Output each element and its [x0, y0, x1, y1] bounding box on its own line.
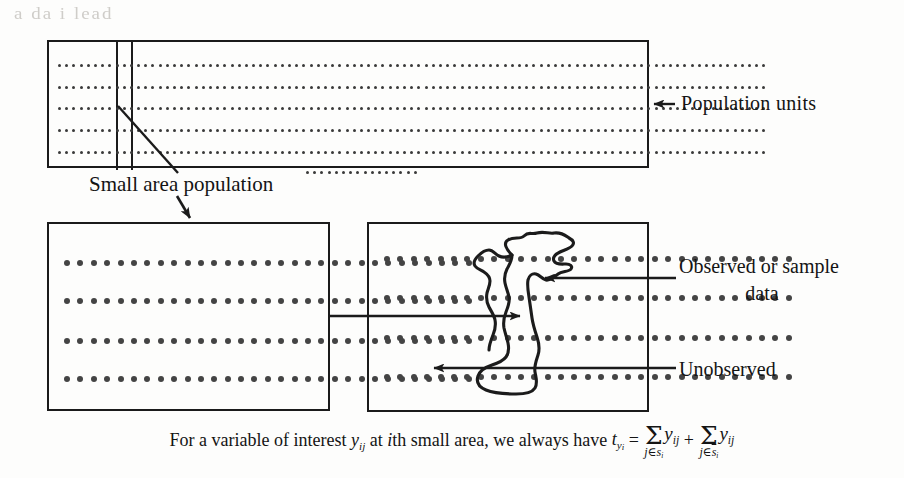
formula-y-variable: yij: [351, 430, 365, 452]
unobserved-label: Unobserved: [679, 358, 776, 381]
population-dot-row: [58, 64, 770, 68]
formula-plus: +: [684, 430, 694, 451]
sigma-2: Σ j∈si: [699, 426, 718, 459]
caption-formula: For a variable of interest yij at ith sm…: [0, 424, 904, 457]
population-units-label: Population units: [681, 92, 816, 115]
stray-dots: [306, 171, 421, 175]
population-dot-row: [58, 151, 770, 155]
sigma-1-limit: j∈si: [644, 446, 663, 460]
observed-sample-data-label: Observed or sample data: [679, 253, 879, 307]
observed-label-line2: data: [679, 280, 879, 307]
formula-middle: at: [370, 430, 383, 451]
formula-equals: =: [629, 430, 639, 451]
small-area-box: [47, 222, 330, 411]
sample-partition-dot-row: [384, 335, 799, 339]
formula-first-sum: Σ j∈si yij: [643, 424, 679, 457]
small-area-down-arrow: [177, 196, 190, 218]
population-box: [47, 40, 649, 168]
population-dot-row: [58, 107, 770, 111]
formula-prefix: For a variable of interest: [170, 430, 347, 451]
sigma-1: Σ j∈si: [644, 426, 663, 459]
figure-canvas: a da i lead: [0, 0, 904, 478]
sample-partition-box: [367, 222, 649, 412]
formula-second-sum: Σ j∈si yij: [698, 424, 734, 457]
sigma-2-limit: j∈si: [699, 446, 718, 460]
formula-middle2: th small area, we always have: [392, 430, 607, 451]
population-dot-row: [58, 129, 770, 133]
population-dot-row: [58, 86, 770, 90]
sum-2-term: yij: [719, 423, 734, 448]
observed-label-line1: Observed or sample: [679, 255, 839, 277]
scan-bleed-artifact: a da i lead: [14, 3, 204, 27]
small-area-population-label: Small area population: [89, 172, 273, 197]
sum-1-term: yij: [664, 423, 679, 448]
formula-t-variable: tyi: [612, 429, 624, 452]
